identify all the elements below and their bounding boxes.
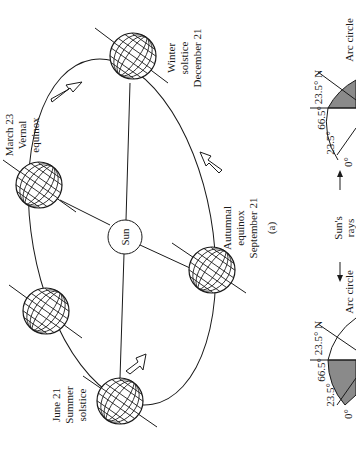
top-lat-23: 23.5° [324, 131, 336, 155]
svg-text:rays: rays [344, 219, 356, 237]
svg-text:Winter: Winter [165, 43, 177, 73]
hollow-arrow-icon [126, 354, 146, 374]
svg-text:equinox: equinox [29, 117, 41, 153]
label-vernal: March 23 Vernal equinox [3, 113, 41, 156]
svg-text:Summer: Summer [63, 386, 75, 424]
top-lat-n: 23.5° N [312, 70, 324, 104]
bottom-lat-n: 23.5° N [312, 321, 324, 355]
sun-rays-label: Sun's rays [332, 216, 356, 239]
bottom-lat-23: 23.5° [324, 383, 336, 407]
top-arc-circle: Arc circle [343, 18, 355, 62]
svg-text:Vernal: Vernal [16, 121, 28, 150]
figure-label: (a) [265, 222, 278, 235]
earth-unlabeled [19, 282, 73, 339]
bottom-arc-circle: Arc circle [343, 270, 355, 314]
svg-text:March 23: March 23 [3, 113, 15, 156]
label-winter: Winter solstice December 21 [165, 29, 203, 88]
label-summer: June 21 Summer solstice [50, 386, 88, 424]
top-lat-66: 66.5° [315, 106, 327, 130]
earth-winter-solstice [106, 27, 160, 84]
svg-text:solstice: solstice [76, 388, 88, 421]
svg-text:Autumnal: Autumnal [221, 206, 233, 250]
svg-text:September 21: September 21 [247, 198, 259, 259]
svg-text:December 21: December 21 [191, 29, 203, 88]
svg-text:June 21: June 21 [50, 388, 62, 422]
bottom-lat-0: 0° [342, 409, 354, 419]
hollow-arrow-icon [200, 152, 222, 173]
svg-text:solstice: solstice [178, 41, 190, 74]
orbit-diagram: Sun Winter solstice December 21 March 23… [0, 0, 356, 473]
arrow-up-icon [337, 170, 343, 177]
bottom-lat-66: 66.5° [315, 358, 327, 382]
panel-b: Arc circle 23.5° N 66.5° 23.5° 0° Sun's … [310, 18, 356, 419]
svg-text:Sun's: Sun's [332, 216, 344, 239]
sun-label: Sun [119, 228, 131, 246]
earth-summer-solstice [93, 372, 147, 429]
earth-vernal-equinox [12, 156, 66, 213]
top-lat-0: 0° [342, 157, 354, 167]
svg-text:equinox: equinox [234, 210, 246, 246]
label-autumnal: Autumnal equinox September 21 [221, 198, 259, 259]
